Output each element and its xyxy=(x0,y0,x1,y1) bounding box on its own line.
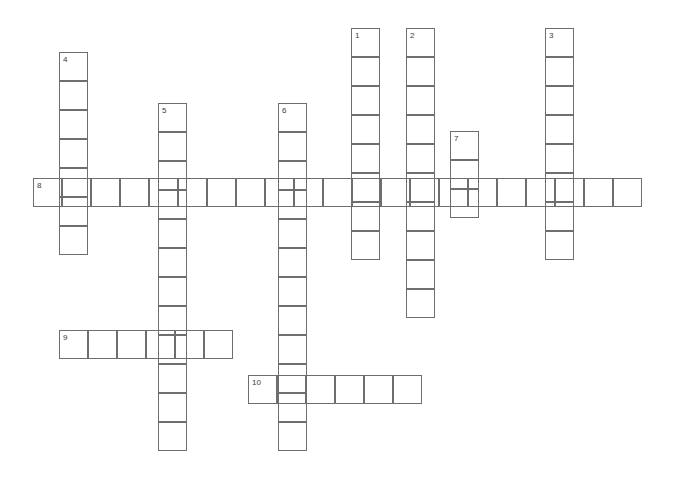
crossword-cell[interactable] xyxy=(59,139,88,168)
crossword-cell[interactable] xyxy=(204,330,233,359)
crossword-cell[interactable] xyxy=(175,330,204,359)
crossword-cell[interactable] xyxy=(545,57,574,86)
crossword-cell[interactable] xyxy=(406,57,435,86)
crossword-cell[interactable] xyxy=(278,306,307,335)
crossword-cell[interactable] xyxy=(236,178,265,207)
crossword-cell[interactable] xyxy=(393,375,422,404)
crossword-cell[interactable] xyxy=(248,375,277,404)
crossword-cell[interactable] xyxy=(545,28,574,57)
crossword-grid[interactable]: 12345678910 xyxy=(0,0,679,485)
crossword-cell[interactable] xyxy=(406,260,435,289)
crossword-cell[interactable] xyxy=(278,219,307,248)
crossword-cell[interactable] xyxy=(59,52,88,81)
crossword-cell[interactable] xyxy=(526,178,555,207)
crossword-cell[interactable] xyxy=(91,178,120,207)
crossword-cell[interactable] xyxy=(158,219,187,248)
crossword-cell[interactable] xyxy=(439,178,468,207)
crossword-cell[interactable] xyxy=(59,330,88,359)
crossword-cell[interactable] xyxy=(545,86,574,115)
crossword-cell[interactable] xyxy=(406,115,435,144)
crossword-cell[interactable] xyxy=(351,231,380,260)
crossword-cell[interactable] xyxy=(351,144,380,173)
crossword-cell[interactable] xyxy=(351,28,380,57)
crossword-cell[interactable] xyxy=(584,178,613,207)
crossword-cell[interactable] xyxy=(294,178,323,207)
crossword-cell[interactable] xyxy=(278,132,307,161)
crossword-cell[interactable] xyxy=(406,144,435,173)
crossword-cell[interactable] xyxy=(278,248,307,277)
crossword-cell[interactable] xyxy=(158,277,187,306)
crossword-cell[interactable] xyxy=(468,178,497,207)
crossword-cell[interactable] xyxy=(59,226,88,255)
crossword-cell[interactable] xyxy=(265,178,294,207)
crossword-cell[interactable] xyxy=(278,103,307,132)
crossword-cell[interactable] xyxy=(278,422,307,451)
crossword-cell[interactable] xyxy=(306,375,335,404)
crossword-cell[interactable] xyxy=(364,375,393,404)
crossword-cell[interactable] xyxy=(335,375,364,404)
crossword-cell[interactable] xyxy=(545,144,574,173)
crossword-cell[interactable] xyxy=(278,335,307,364)
crossword-cell[interactable] xyxy=(158,132,187,161)
crossword-cell[interactable] xyxy=(33,178,62,207)
crossword-cell[interactable] xyxy=(120,178,149,207)
crossword-cell[interactable] xyxy=(59,81,88,110)
crossword-cell[interactable] xyxy=(323,178,352,207)
crossword-cell[interactable] xyxy=(545,115,574,144)
crossword-cell[interactable] xyxy=(207,178,236,207)
crossword-cell[interactable] xyxy=(352,178,381,207)
crossword-cell[interactable] xyxy=(406,231,435,260)
crossword-cell[interactable] xyxy=(158,248,187,277)
crossword-cell[interactable] xyxy=(277,375,306,404)
crossword-cell[interactable] xyxy=(613,178,642,207)
crossword-cell[interactable] xyxy=(351,57,380,86)
crossword-cell[interactable] xyxy=(149,178,178,207)
crossword-cell[interactable] xyxy=(158,103,187,132)
crossword-cell[interactable] xyxy=(406,289,435,318)
crossword-cell[interactable] xyxy=(158,393,187,422)
crossword-cell[interactable] xyxy=(497,178,526,207)
crossword-cell[interactable] xyxy=(62,178,91,207)
crossword-cell[interactable] xyxy=(555,178,584,207)
crossword-cell[interactable] xyxy=(351,115,380,144)
crossword-cell[interactable] xyxy=(158,422,187,451)
crossword-cell[interactable] xyxy=(406,86,435,115)
crossword-cell[interactable] xyxy=(178,178,207,207)
crossword-cell[interactable] xyxy=(59,110,88,139)
crossword-cell[interactable] xyxy=(146,330,175,359)
crossword-cell[interactable] xyxy=(545,231,574,260)
crossword-cell[interactable] xyxy=(158,364,187,393)
crossword-cell[interactable] xyxy=(450,131,479,160)
crossword-cell[interactable] xyxy=(117,330,146,359)
crossword-cell[interactable] xyxy=(88,330,117,359)
crossword-cell[interactable] xyxy=(410,178,439,207)
crossword-puzzle: 12345678910 xyxy=(0,0,679,485)
crossword-cell[interactable] xyxy=(406,28,435,57)
crossword-cell[interactable] xyxy=(381,178,410,207)
crossword-cell[interactable] xyxy=(351,86,380,115)
crossword-cell[interactable] xyxy=(278,277,307,306)
